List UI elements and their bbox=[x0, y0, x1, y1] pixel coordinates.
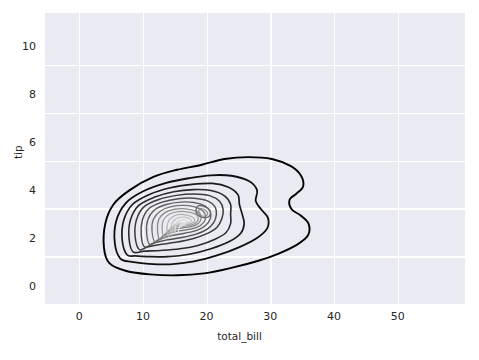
x-tick-label: 20 bbox=[187, 310, 227, 323]
y-tick-label: 10 bbox=[6, 40, 36, 54]
y-axis-label: tip bbox=[12, 145, 24, 159]
x-tick-label: 10 bbox=[123, 310, 163, 323]
x-axis-label: total_bill bbox=[0, 330, 479, 342]
contour-line bbox=[199, 209, 208, 216]
x-tick-label: 0 bbox=[59, 310, 99, 323]
x-tick-label: 40 bbox=[314, 310, 354, 323]
kde-contour-figure: 10 8 6 4 2 0 0 10 20 30 40 50 total_bill… bbox=[0, 0, 479, 360]
x-tick-label: 50 bbox=[378, 310, 418, 323]
plot-area bbox=[45, 13, 465, 305]
y-tick-label: 2 bbox=[6, 232, 36, 246]
kde-contour-lines bbox=[45, 13, 465, 305]
y-tick-label: 4 bbox=[6, 184, 36, 198]
y-tick-label: 0 bbox=[6, 280, 36, 294]
x-tick-label: 30 bbox=[250, 310, 290, 323]
y-tick-label: 8 bbox=[6, 88, 36, 102]
